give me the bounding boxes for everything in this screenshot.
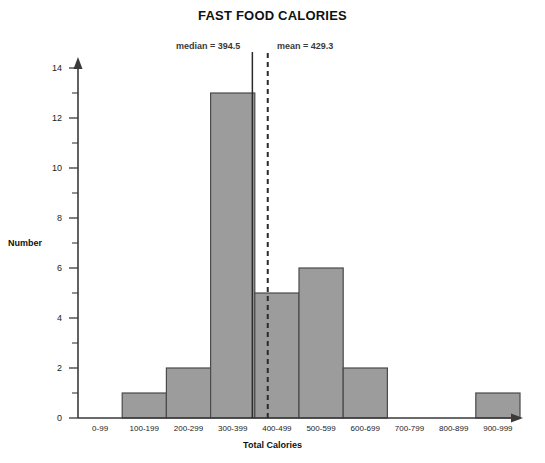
y-axis-tick-label: 10 [36,163,62,173]
x-axis-tick-label: 800-899 [432,424,476,434]
x-axis-tick-label: 400-499 [255,424,299,434]
histogram-bar [255,293,299,418]
x-axis-tick-label: 300-399 [211,424,255,434]
y-axis-arrowhead [74,57,83,69]
histogram-bar [166,368,210,418]
y-axis-tick-label: 4 [36,313,62,323]
plot-area [0,0,545,463]
histogram-chart: FAST FOOD CALORIES median = 394.5 mean =… [0,0,545,463]
histogram-bar [343,368,387,418]
y-axis-tick-label: 14 [36,63,62,73]
histogram-bar [299,268,343,418]
bars-group [122,93,520,418]
x-axis-tick-label: 0-99 [78,424,122,434]
y-axis-tick-label: 2 [36,363,62,373]
histogram-bar [476,393,520,418]
y-axis-tick-label: 8 [36,213,62,223]
y-axis-tick-label: 12 [36,113,62,123]
x-axis-tick-label: 500-599 [299,424,343,434]
x-axis-tick-label: 700-799 [387,424,431,434]
histogram-bar [211,93,255,418]
x-axis-tick-label: 100-199 [122,424,166,434]
x-axis-tick-label: 600-699 [343,424,387,434]
x-axis-tick-label: 200-299 [166,424,210,434]
y-axis-tick-label: 6 [36,263,62,273]
y-axis-tick-label: 0 [36,413,62,423]
histogram-bar [122,393,166,418]
x-axis-tick-label: 900-999 [476,424,520,434]
